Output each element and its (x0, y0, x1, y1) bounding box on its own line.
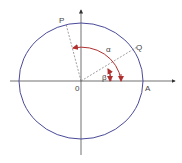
label-Q: Q (136, 43, 142, 52)
label-A: A (145, 84, 151, 93)
unit-circle-diagram: P Q 0 A α β (0, 0, 182, 163)
label-alpha: α (106, 45, 111, 54)
label-P: P (59, 16, 64, 25)
alpha-arc (73, 47, 121, 80)
ray-OP (66, 24, 81, 81)
diagram-canvas: P Q 0 A α β (0, 0, 182, 163)
label-beta: β (102, 73, 107, 82)
label-O: 0 (75, 84, 80, 93)
